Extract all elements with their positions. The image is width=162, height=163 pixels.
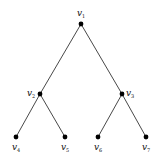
node-v2 <box>38 92 43 97</box>
node-label-v7: v7 <box>142 142 150 153</box>
tree-nodes <box>14 22 149 140</box>
node-label-v6: v6 <box>94 142 102 153</box>
edge-v2-v4 <box>16 94 40 137</box>
node-v1 <box>79 22 84 27</box>
node-v6 <box>96 135 101 140</box>
node-v7 <box>144 135 149 140</box>
node-label-v2: v2 <box>27 88 35 99</box>
tree-edges <box>16 24 146 137</box>
edge-v3-v7 <box>122 94 146 137</box>
node-v5 <box>63 135 68 140</box>
node-v4 <box>14 135 19 140</box>
node-v3 <box>120 92 125 97</box>
node-label-v1: v1 <box>77 8 85 19</box>
edge-v1-v3 <box>81 24 122 94</box>
node-label-v5: v5 <box>61 142 69 153</box>
node-label-v4: v4 <box>12 142 20 153</box>
edge-v1-v2 <box>40 24 81 94</box>
edge-v2-v5 <box>40 94 65 137</box>
tree-diagram: v1v2v3v4v5v6v7 <box>0 0 162 163</box>
edge-v3-v6 <box>98 94 122 137</box>
node-label-v3: v3 <box>126 88 134 99</box>
tree-labels: v1v2v3v4v5v6v7 <box>12 8 150 153</box>
